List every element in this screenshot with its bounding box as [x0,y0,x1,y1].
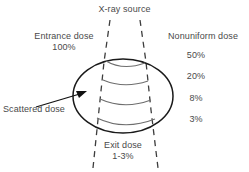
isodose-arc-20 [103,80,148,85]
label-exit-dose: Exit dose 1-3% [88,140,158,162]
entrance-dose-value: 100% [18,42,110,53]
label-entrance-dose: Entrance dose 100% [18,31,110,53]
xray-dose-diagram: X-ray source Entrance dose 100% Nonunifo… [0,0,249,172]
label-isodose-20: 20% [176,71,216,82]
label-isodose-3: 3% [176,114,216,125]
entrance-dose-name: Entrance dose [34,31,93,41]
label-nonuniform-dose: Nonuniform dose [158,31,248,42]
exit-dose-value: 1-3% [88,151,158,162]
label-xray-source: X-ray source [0,4,249,15]
scattered-dose-arrowhead-icon [76,91,87,98]
label-isodose-50: 50% [176,50,216,61]
isodose-arc-8 [100,99,151,105]
isodose-arc-3 [97,118,155,125]
exit-dose-name: Exit dose [104,140,142,150]
isodose-arc-50 [106,61,145,67]
label-scattered-dose: Scattered dose [3,104,65,115]
body-cross-section-ellipse [73,59,173,133]
label-isodose-8: 8% [176,93,216,104]
